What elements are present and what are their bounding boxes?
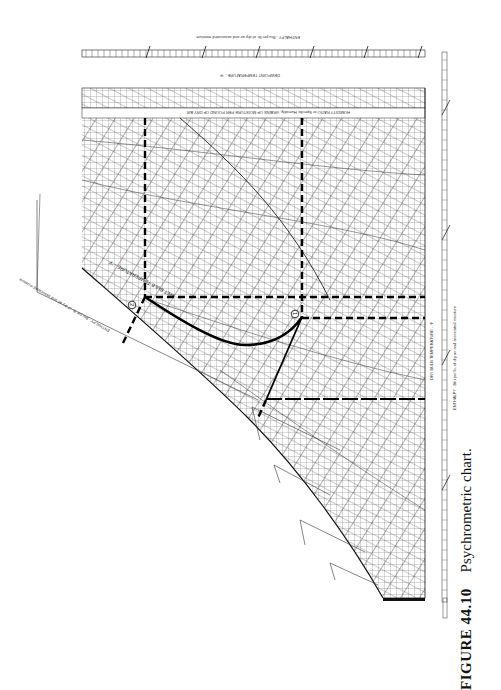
svg-text:HUMIDITY RATIO or Specific Hum: HUMIDITY RATIO or Specific Humidity, GRA… xyxy=(186,110,350,115)
humidity-ratio-strip: HUMIDITY RATIO or Specific Humidity, GRA… xyxy=(82,108,425,118)
svg-text:DEWPOINT TEMPERATURE - °F: DEWPOINT TEMPERATURE - °F xyxy=(219,73,280,78)
svg-text:ENTHALPY - Btu per lb. of dry: ENTHALPY - Btu per lb. of dry air and as… xyxy=(17,277,110,334)
psychrometric-chart: ENTHALPY - Btu per lb. of dry air and as… xyxy=(0,0,501,690)
dewpoint-scale: DEWPOINT TEMPERATURE - °F xyxy=(82,73,425,108)
figure-caption: FIGURE 44.10 Psychrometric chart. xyxy=(458,448,475,690)
point-1-marker: 1 xyxy=(291,310,299,318)
svg-text:ENTHALPY - Btu per lb. of dry: ENTHALPY - Btu per lb. of dry air and as… xyxy=(452,305,457,410)
figure-number: FIGURE 44.10 xyxy=(458,588,474,690)
point-2-marker: 2 xyxy=(128,301,136,309)
figure-title: Psychrometric chart. xyxy=(458,448,474,572)
top-enthalpy-scale: ENTHALPY - Btu per lb. of dry air and as… xyxy=(82,35,425,58)
right-enthalpy-scale: ENTHALPY - Btu per lb. of dry air and as… xyxy=(442,52,457,602)
dry-bulb-label: DRY BULB TEMPERATURE - °F xyxy=(429,321,434,380)
svg-text:ENTHALPY - Btu per lb. of dry: ENTHALPY - Btu per lb. of dry air and as… xyxy=(195,35,300,40)
chart-grid xyxy=(82,118,425,598)
